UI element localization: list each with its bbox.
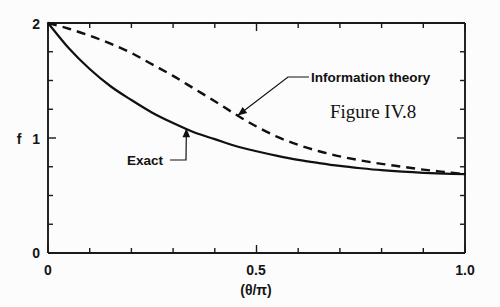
y-axis-title: f xyxy=(17,131,22,147)
x-tick-label-0-5: 0.5 xyxy=(246,262,266,278)
chart-canvas: 2 1 0 0 0.5 1.0 f (θ/π) Information theo… xyxy=(0,0,500,307)
y-tick-label-1: 1 xyxy=(32,131,40,147)
x-tick-label-1-0: 1.0 xyxy=(455,262,475,278)
y-tick-label-2: 2 xyxy=(32,16,40,32)
x-tick-label-0: 0 xyxy=(44,262,52,278)
y-tick-label-0: 0 xyxy=(32,245,40,261)
x-axis-title: (θ/π) xyxy=(240,282,272,298)
annotation-label-information-theory: Information theory xyxy=(311,70,431,85)
figure-container: 2 1 0 0 0.5 1.0 f (θ/π) Information theo… xyxy=(0,0,500,307)
annotation-label-exact: Exact xyxy=(127,153,164,168)
figure-caption: Figure IV.8 xyxy=(330,101,416,122)
figure-background xyxy=(0,0,500,307)
